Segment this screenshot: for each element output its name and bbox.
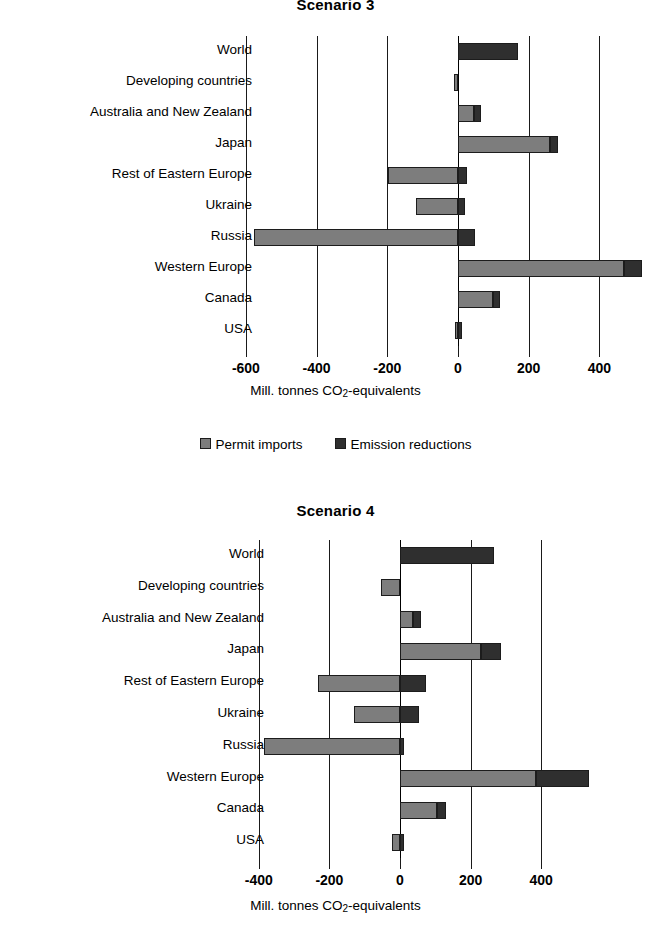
bar-segment-permit-imports: [318, 675, 400, 692]
bar-row: [259, 763, 671, 795]
bar-row: [259, 794, 671, 826]
bar-segment-permit-imports: [400, 643, 481, 660]
bar-segment-permit-imports: [392, 834, 400, 851]
x-tick-mark: [400, 858, 401, 869]
x-tick-label: -400: [303, 360, 331, 376]
category-label: Western Europe: [155, 260, 252, 274]
plot-area-scenario-3: [247, 36, 671, 346]
category-label: Developing countries: [126, 74, 252, 88]
bar-segment-permit-imports: [454, 74, 458, 91]
x-axis-title-subscript: 2: [342, 903, 348, 914]
bar-segment-permit-imports: [458, 136, 550, 153]
bar-segment-permit-imports: [458, 105, 474, 122]
x-axis-title-subscript: 2: [342, 388, 348, 399]
legend-swatch-icon: [200, 438, 211, 449]
x-tick-mark: [246, 346, 247, 357]
category-label: World: [217, 43, 252, 57]
category-label: Russia: [211, 229, 252, 243]
x-tick-mark: [599, 346, 600, 357]
bar-segment-emission-reductions: [481, 643, 500, 660]
bar-row: [259, 635, 671, 667]
x-axis-title-suffix: -equivalents: [348, 383, 421, 398]
bar-row: [259, 604, 671, 636]
x-axis-title-suffix: -equivalents: [348, 898, 421, 913]
x-tick-label: -200: [315, 872, 343, 888]
x-tick-mark: [387, 346, 388, 357]
x-axis-title-prefix: Mill. tonnes CO: [250, 898, 342, 913]
bar-segment-permit-imports: [458, 260, 624, 277]
bar-segment-emission-reductions: [458, 198, 465, 215]
x-tick-label: 200: [459, 872, 482, 888]
plot-area-scenario-4: [259, 540, 671, 858]
category-label: Russia: [223, 738, 264, 752]
bar-row: [259, 540, 671, 572]
bar-segment-permit-imports: [388, 167, 458, 184]
x-tick-mark: [458, 346, 459, 357]
x-tick-label: 400: [530, 872, 553, 888]
x-tick-mark: [329, 858, 330, 869]
bar-row: [247, 284, 671, 315]
x-tick-mark: [471, 858, 472, 869]
x-tick-mark: [541, 858, 542, 869]
bar-segment-emission-reductions: [400, 738, 404, 755]
x-tick-label: 0: [454, 360, 462, 376]
legend-label: Permit imports: [216, 437, 303, 452]
category-label: USA: [236, 833, 264, 847]
category-label: Developing countries: [138, 579, 264, 593]
category-label: Japan: [215, 136, 252, 150]
bar-segment-permit-imports: [254, 229, 458, 246]
bar-segment-permit-imports: [458, 291, 493, 308]
x-axis-title-scenario-3: Mill. tonnes CO2-equivalents: [0, 383, 671, 398]
bar-segment-permit-imports: [354, 706, 400, 723]
x-tick-mark: [317, 346, 318, 357]
x-tick-label: 0: [396, 872, 404, 888]
x-tick-label: -200: [373, 360, 401, 376]
legend-item-permit: Permit imports: [200, 437, 303, 452]
bar-row: [247, 129, 671, 160]
x-tick-label: 200: [517, 360, 540, 376]
x-axis-title-prefix: Mill. tonnes CO: [250, 383, 342, 398]
x-tick-label: -400: [245, 872, 273, 888]
bar-row: [247, 160, 671, 191]
category-label: Ukraine: [217, 706, 264, 720]
bar-segment-emission-reductions: [400, 706, 419, 723]
category-label: Western Europe: [167, 770, 264, 784]
category-label: USA: [224, 322, 252, 336]
x-tick-mark: [259, 858, 260, 869]
bar-row: [247, 67, 671, 98]
bar-segment-emission-reductions: [474, 105, 481, 122]
bar-row: [259, 667, 671, 699]
bar-segment-emission-reductions: [458, 229, 475, 246]
bar-row: [247, 315, 671, 346]
bar-row: [259, 731, 671, 763]
legend-label: Emission reductions: [351, 437, 472, 452]
bar-row: [247, 98, 671, 129]
bar-row: [247, 36, 671, 67]
legend-item-emission: Emission reductions: [335, 437, 472, 452]
bar-row: [259, 572, 671, 604]
bar-segment-emission-reductions: [437, 802, 446, 819]
category-label: Japan: [227, 642, 264, 656]
bar-segment-emission-reductions: [400, 834, 404, 851]
x-tick-mark: [529, 346, 530, 357]
bar-row: [259, 699, 671, 731]
bar-segment-emission-reductions: [458, 43, 518, 60]
bar-segment-permit-imports: [264, 738, 400, 755]
bar-segment-emission-reductions: [550, 136, 558, 153]
bar-segment-emission-reductions: [624, 260, 642, 277]
category-label: Australia and New Zealand: [102, 611, 264, 625]
bar-row: [247, 253, 671, 284]
chart-title-scenario-4: Scenario 4: [0, 502, 671, 519]
chart-legend: Permit importsEmission reductions: [0, 437, 671, 452]
bar-segment-emission-reductions: [413, 611, 421, 628]
legend-swatch-icon: [335, 438, 346, 449]
bar-row: [247, 222, 671, 253]
bar-segment-permit-imports: [400, 802, 437, 819]
category-label: Rest of Eastern Europe: [124, 674, 264, 688]
bar-segment-permit-imports: [381, 579, 400, 596]
x-axis-title-scenario-4: Mill. tonnes CO2-equivalents: [0, 898, 671, 913]
category-label: Canada: [217, 801, 264, 815]
category-label: Australia and New Zealand: [90, 105, 252, 119]
bar-segment-emission-reductions: [536, 770, 589, 787]
x-tick-label: -600: [232, 360, 260, 376]
